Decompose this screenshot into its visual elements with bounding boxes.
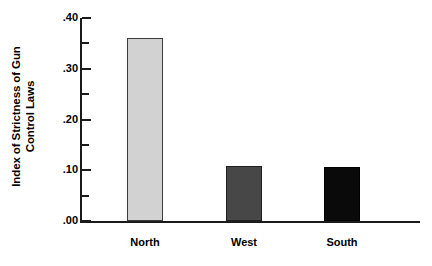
y-axis-title: Index of Strictness of Gun Control Laws [0,0,46,232]
y-axis-title-line-2: Control Laws [23,46,37,187]
y-axis-tick-label: .30 [63,63,78,74]
plot-area [80,18,420,223]
bar-chart: Index of Strictness of Gun Control Laws … [0,0,432,266]
y-axis-minor-tick [82,42,89,44]
y-axis-tick-label: .40 [63,12,78,23]
y-axis-title-line-1: Index of Strictness of Gun [10,46,24,187]
y-axis-major-tick [82,169,91,171]
y-axis-minor-tick [82,144,89,146]
y-axis-major-tick [82,17,91,19]
y-axis-minor-tick [82,93,89,95]
y-axis-major-tick [82,119,91,121]
bar-south [324,167,360,221]
x-axis-tick-labels: NorthWestSouth [80,236,420,256]
bar-west [226,166,262,221]
y-axis-tick-label: .00 [63,215,78,226]
y-axis-tick-labels: .00.10.20.30.40 [44,0,80,232]
x-axis-tick-label-west: West [231,236,257,249]
x-axis-tick-label-north: North [130,236,159,249]
x-axis-line [80,221,420,223]
y-axis-major-tick [82,68,91,70]
y-axis-major-tick [82,220,91,222]
x-axis-tick-label-south: South [326,236,357,249]
y-axis-tick-label: .10 [63,164,78,175]
bar-north [127,38,163,221]
y-axis-line [80,18,82,223]
y-axis-minor-tick [82,195,89,197]
y-axis-tick-label: .20 [63,114,78,125]
